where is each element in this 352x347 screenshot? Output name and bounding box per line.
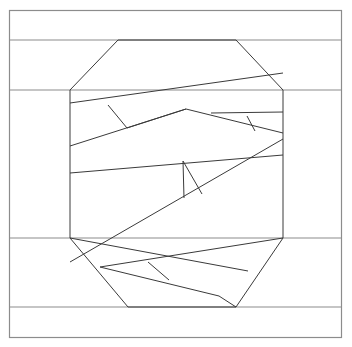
geometric-line-drawing [0,0,352,347]
background-rect [0,0,352,347]
figure-canvas [0,0,352,347]
